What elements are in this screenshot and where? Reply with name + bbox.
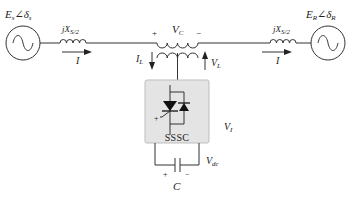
inductor-icon — [60, 40, 86, 43]
right-current-arrow: I — [262, 49, 292, 66]
series-coupling-transformer — [157, 43, 198, 80]
sssc-circuit-diagram: Es∠δs ER∠δR jXS/2 jXS/2 I I — [0, 0, 356, 199]
series-voltage-label: + VC − — [152, 23, 201, 38]
ac-sine-icon — [13, 36, 33, 51]
svg-text:IL: IL — [135, 53, 143, 66]
sssc-label: SSSC — [165, 132, 190, 143]
dc-voltage-label: Vdc — [206, 155, 220, 168]
inductor-icon — [270, 40, 296, 43]
converter-output-voltage-label: VI — [224, 121, 233, 134]
injected-current-arrow: IL — [135, 52, 155, 70]
svg-text:VC: VC — [172, 23, 184, 37]
sssc-converter: + SSSC — [145, 80, 209, 143]
svg-text:+: + — [152, 28, 157, 38]
capacitor-label: C — [173, 180, 181, 192]
arrow-down-icon — [149, 62, 155, 70]
dc-minus-sign: − — [185, 170, 190, 179]
sending-end-source: Es∠δs — [4, 8, 40, 60]
right-line-reactance: jXS/2 — [270, 24, 296, 43]
right-current-label: I — [275, 55, 280, 66]
left-reactance-label: jXS/2 — [61, 24, 79, 36]
ac-sine-icon — [318, 36, 338, 51]
left-current-label: I — [75, 55, 80, 66]
injected-voltage-arrow: VL — [202, 51, 221, 70]
svg-text:−: − — [196, 28, 201, 38]
svg-text:VL: VL — [211, 57, 221, 70]
arrow-right-icon — [84, 49, 92, 55]
gate-marker: + — [154, 114, 159, 123]
sending-source-label: Es∠δs — [4, 8, 32, 22]
left-line-reactance: jXS/2 — [60, 24, 86, 43]
arrow-right-icon — [284, 49, 292, 55]
right-reactance-label: jXS/2 — [272, 24, 290, 36]
left-current-arrow: I — [62, 49, 92, 66]
transformer-primary-icon — [157, 43, 198, 48]
receiving-source-label: ER∠δR — [305, 8, 336, 22]
receiving-end-source: ER∠δR — [305, 8, 345, 60]
arrow-up-icon — [202, 51, 208, 59]
dc-plus-sign: + — [163, 170, 168, 179]
dc-link-capacitor — [155, 143, 199, 172]
